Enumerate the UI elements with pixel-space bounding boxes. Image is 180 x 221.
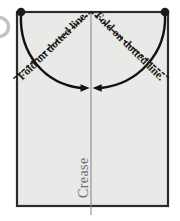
fold-diagram-container: Fold on dotted line. Fold on dotted line… <box>0 0 180 221</box>
corner-dot-right-icon <box>161 8 170 17</box>
fold-diagram-svg: Fold on dotted line. Fold on dotted line… <box>0 0 180 221</box>
crease-label: Crease <box>76 157 91 198</box>
paper-sheet <box>17 12 168 206</box>
corner-dot-left-icon <box>17 8 26 17</box>
